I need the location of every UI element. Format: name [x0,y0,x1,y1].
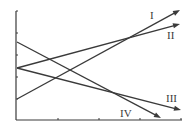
series-iii [17,68,181,111]
series-labels: I II III IV [120,9,177,119]
series-label-i: I [150,9,154,21]
line-chart: I II III IV [0,0,192,127]
series-label-iii: III [166,92,177,104]
arrowhead-icon [173,10,180,16]
series-ii [17,23,180,68]
arrowhead-icon [173,23,180,28]
series-line-iv [17,42,156,115]
series-line-ii [17,26,174,68]
series-iv [17,42,161,118]
series-lines [17,10,181,118]
series-line-i [17,13,175,99]
series-label-ii: II [167,29,175,41]
arrowhead-icon [154,112,161,118]
series-line-iii [17,68,175,109]
series-label-iv: IV [120,107,132,119]
arrowhead-icon [174,106,181,111]
